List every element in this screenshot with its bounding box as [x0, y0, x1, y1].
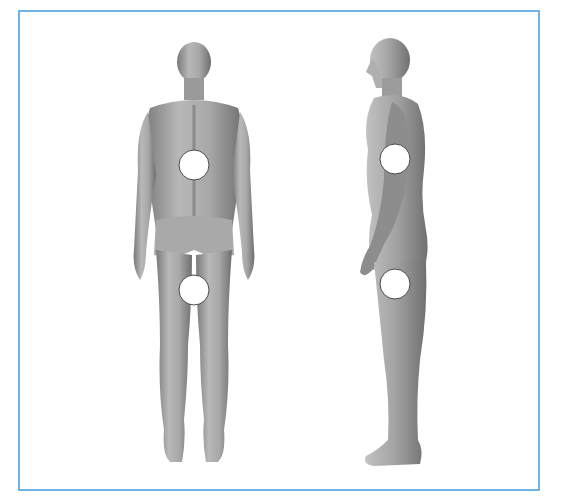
back-view-figure — [134, 42, 255, 462]
back-head — [177, 42, 211, 82]
side-flank-marker — [380, 144, 410, 174]
back-hips — [154, 216, 234, 257]
back-lower-back-marker — [179, 150, 209, 180]
side-view-figure — [360, 38, 428, 466]
back-neck — [184, 78, 204, 100]
back-upper-thigh-marker — [179, 275, 209, 305]
anatomy-figures — [0, 0, 571, 502]
side-thigh-marker — [380, 269, 410, 299]
illustration-stage — [0, 0, 571, 502]
